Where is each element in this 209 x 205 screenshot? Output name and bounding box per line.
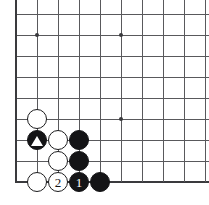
star-point-upper-right: [119, 33, 123, 37]
white-stone-c: [48, 151, 68, 171]
grid-line-horizontal: [16, 161, 209, 162]
star-point-lower-right: [119, 117, 123, 121]
black-stone-marked: [27, 130, 47, 150]
black-stone-move-1: 1: [69, 172, 89, 192]
grid-line-horizontal: [16, 14, 209, 15]
grid-line-horizontal: [16, 98, 209, 99]
grid-line-horizontal: [16, 56, 209, 57]
black-stone-c: [69, 130, 89, 150]
black-stone-d: [69, 151, 89, 171]
white-stone-a: [27, 109, 47, 129]
stone-move-number: 2: [55, 176, 62, 189]
grid-line-vertical: [163, 0, 164, 182]
board-edge-left: [15, 0, 17, 183]
star-point-upper-left: [35, 33, 39, 37]
stone-move-number: 1: [76, 176, 83, 189]
triangle-marker-icon: [31, 136, 43, 146]
white-stone-b: [48, 130, 68, 150]
grid-line-vertical: [205, 0, 206, 182]
grid-line-vertical: [100, 0, 101, 182]
white-stone-move-2: 2: [48, 172, 68, 192]
black-stone-e: [90, 172, 110, 192]
grid-line-horizontal: [16, 35, 209, 36]
go-board-diagram: 21: [0, 0, 209, 205]
grid-line-vertical: [121, 0, 122, 182]
grid-line-vertical: [184, 0, 185, 182]
grid-line-vertical: [142, 0, 143, 182]
white-stone-d: [27, 172, 47, 192]
grid-line-vertical: [37, 0, 38, 182]
grid-line-horizontal: [16, 77, 209, 78]
